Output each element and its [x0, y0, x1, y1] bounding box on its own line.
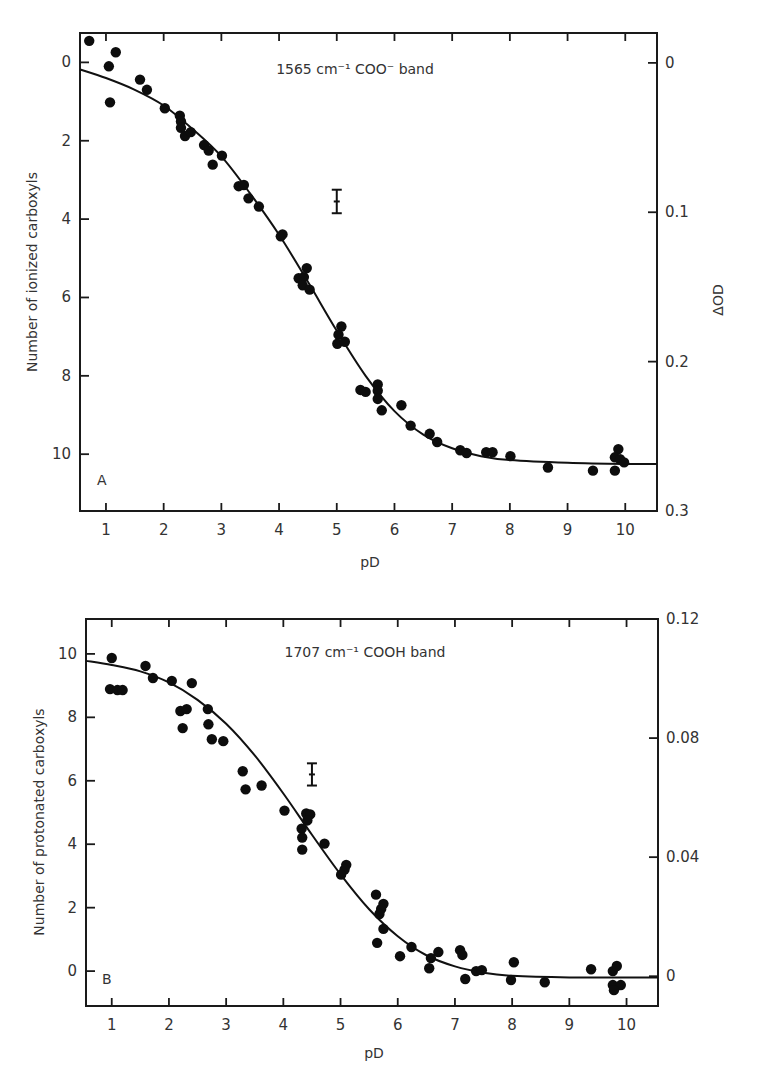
- panel-b-x-ticks: 12345678910: [107, 619, 636, 1034]
- data-point: [203, 704, 213, 714]
- panel-a-fit-curve: [80, 69, 657, 464]
- data-point: [336, 869, 346, 879]
- data-point: [238, 766, 248, 776]
- data-point: [243, 193, 253, 203]
- panel-a-y2-ticks: 00.10.20.3: [648, 54, 689, 520]
- data-point: [177, 723, 187, 733]
- panel-a-x-tick-label: 7: [447, 521, 457, 539]
- data-point: [181, 704, 191, 714]
- panel-b-y-tick-label: 4: [67, 835, 77, 853]
- panel-b-x-tick-label: 6: [393, 1016, 403, 1034]
- data-point: [302, 263, 312, 273]
- data-point: [142, 85, 152, 95]
- data-point: [167, 676, 177, 686]
- panel-b-y-tick-label: 10: [58, 645, 77, 663]
- data-point: [543, 462, 553, 472]
- data-point: [160, 103, 170, 113]
- data-point: [360, 387, 370, 397]
- panel-b-y-tick-label: 8: [67, 708, 77, 726]
- panel-a-y-axis-label: Number of ionized carboxyls: [24, 172, 40, 372]
- panel-b-x-tick-label: 9: [565, 1016, 575, 1034]
- data-point: [208, 159, 218, 169]
- data-point: [487, 447, 497, 457]
- data-point: [207, 734, 217, 744]
- panel-a-y2-axis-label: ΔOD: [710, 284, 726, 315]
- data-point: [426, 953, 436, 963]
- panel-b-points: [105, 653, 626, 996]
- panel-b-y-tick-label: 6: [67, 772, 77, 790]
- panel-a-x-tick-label: 10: [616, 521, 635, 539]
- panel-a-y-tick-label: 6: [61, 288, 71, 306]
- data-point: [612, 961, 622, 971]
- data-point: [461, 448, 471, 458]
- data-point: [203, 719, 213, 729]
- panel-a-chart: 12345678910 0246810 00.10.20.3 1565 cm⁻¹…: [24, 33, 726, 570]
- data-point: [217, 150, 227, 160]
- panel-a-y-tick-label: 10: [52, 445, 71, 463]
- panel-b-y2-tick-label: 0.12: [666, 610, 699, 628]
- data-point: [277, 229, 287, 239]
- data-point: [111, 47, 121, 57]
- panel-b-x-tick-label: 4: [279, 1016, 289, 1034]
- panel-a-x-tick-label: 5: [332, 521, 342, 539]
- panel-a-x-tick-label: 4: [274, 521, 284, 539]
- data-point: [84, 36, 94, 46]
- data-point: [148, 673, 158, 683]
- panel-b-title: 1707 cm⁻¹ COOH band: [285, 644, 446, 660]
- data-point: [374, 909, 384, 919]
- panel-b-y-axis-label: Number of protonated carboxyls: [31, 708, 47, 935]
- panel-b-y2-tick-label: 0: [666, 967, 676, 985]
- data-point: [297, 844, 307, 854]
- data-point: [477, 965, 487, 975]
- panel-b-x-tick-label: 8: [507, 1016, 517, 1034]
- data-point: [540, 977, 550, 987]
- data-point: [396, 400, 406, 410]
- panel-b-fit-curve: [86, 661, 658, 978]
- data-point: [619, 457, 629, 467]
- panel-a-x-axis-label: pD: [360, 554, 380, 570]
- panel-a-y2-tick-label: 0.1: [665, 203, 689, 221]
- data-point: [395, 951, 405, 961]
- panel-b-y-ticks: 0246810: [58, 645, 95, 980]
- panel-b-y-tick-label: 2: [67, 899, 77, 917]
- data-point: [457, 950, 467, 960]
- data-point: [319, 838, 329, 848]
- panel-a-y-tick-label: 4: [61, 210, 71, 228]
- data-point: [296, 823, 306, 833]
- panel-a-label: A: [97, 472, 107, 488]
- data-point: [505, 451, 515, 461]
- data-point: [256, 780, 266, 790]
- data-point: [506, 975, 516, 985]
- data-point: [371, 889, 381, 899]
- data-point: [509, 957, 519, 967]
- panel-b-y2-tick-label: 0.08: [666, 729, 699, 747]
- panel-a-error-bar: [332, 190, 342, 214]
- data-point: [586, 964, 596, 974]
- data-point: [610, 465, 620, 475]
- data-point: [135, 74, 145, 84]
- data-point: [203, 145, 213, 155]
- data-point: [460, 974, 470, 984]
- panel-a-x-tick-label: 9: [563, 521, 573, 539]
- panel-a-y2-tick-label: 0.2: [665, 353, 689, 371]
- data-point: [432, 437, 442, 447]
- panel-a-title: 1565 cm⁻¹ COO⁻ band: [276, 61, 434, 77]
- data-point: [424, 429, 434, 439]
- data-point: [340, 337, 350, 347]
- panel-a-y-ticks: 0246810: [52, 53, 89, 463]
- data-point: [239, 180, 249, 190]
- panel-a-y-tick-label: 0: [61, 53, 71, 71]
- panel-b-x-tick-label: 7: [450, 1016, 460, 1034]
- panel-a-x-tick-label: 3: [217, 521, 227, 539]
- panel-b-y-tick-label: 0: [67, 962, 77, 980]
- data-point: [609, 985, 619, 995]
- panel-b-x-tick-label: 5: [336, 1016, 346, 1034]
- data-point: [304, 284, 314, 294]
- panel-a-points: [84, 36, 629, 476]
- data-point: [218, 736, 228, 746]
- figure: 12345678910 0246810 00.10.20.3 1565 cm⁻¹…: [0, 0, 758, 1070]
- panel-b-y2-tick-label: 0.04: [666, 848, 699, 866]
- data-point: [187, 678, 197, 688]
- panel-b-x-tick-label: 1: [107, 1016, 117, 1034]
- panel-a-x-tick-label: 1: [101, 521, 111, 539]
